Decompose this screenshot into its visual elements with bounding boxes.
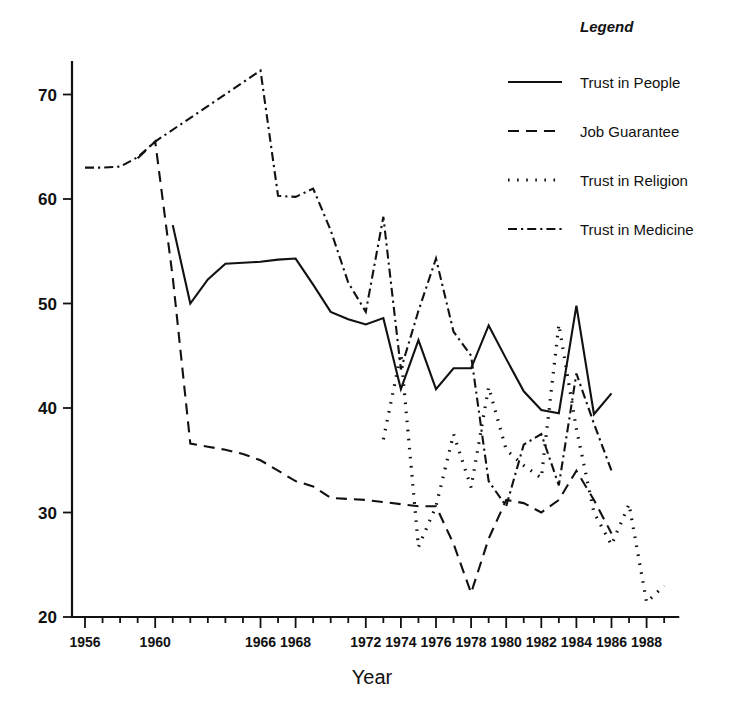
x-tick-label: 1968 — [280, 634, 311, 650]
y-tick-label: 30 — [38, 504, 57, 523]
series-line-trust-in-people — [173, 225, 612, 414]
x-tick-label: 1974 — [385, 634, 416, 650]
y-tick-label: 60 — [38, 190, 57, 209]
legend-label: Job Guarantee — [580, 123, 679, 140]
x-tick-label: 1956 — [69, 634, 100, 650]
series-line-trust-in-religion — [383, 324, 664, 602]
y-axis: 203040506070 — [38, 62, 72, 627]
y-tick-label: 70 — [38, 86, 57, 105]
x-tick-label: 1982 — [526, 634, 557, 650]
series-line-trust-in-medicine — [85, 70, 612, 506]
x-tick-label: 1966 — [245, 634, 276, 650]
x-tick-label: 1986 — [596, 634, 627, 650]
x-tick-label: 1980 — [491, 634, 522, 650]
x-axis: 1956196019661968197219741976197819801982… — [69, 617, 678, 650]
chart-legend: LegendTrust in PeopleJob GuaranteeTrust … — [508, 18, 694, 238]
chart-page: 203040506070 195619601966196819721974197… — [0, 0, 744, 711]
x-tick-label: 1978 — [456, 634, 487, 650]
series-line-job-guarantee — [138, 142, 612, 593]
y-tick-label: 40 — [38, 399, 57, 418]
x-tick-label: 1960 — [140, 634, 171, 650]
x-tick-label: 1984 — [561, 634, 592, 650]
x-tick-label: 1972 — [350, 634, 381, 650]
series-layer — [85, 70, 664, 602]
legend-label: Trust in Medicine — [580, 221, 694, 238]
legend-label: Trust in Religion — [580, 172, 688, 189]
legend-title: Legend — [580, 18, 634, 35]
chart-svg: 203040506070 195619601966196819721974197… — [0, 0, 744, 711]
x-tick-label: 1988 — [631, 634, 662, 650]
y-tick-label: 50 — [38, 295, 57, 314]
legend-label: Trust in People — [580, 74, 680, 91]
x-tick-label: 1976 — [420, 634, 451, 650]
y-tick-label: 20 — [38, 608, 57, 627]
line-chart-figure: 203040506070 195619601966196819721974197… — [0, 0, 744, 711]
x-axis-title: Year — [352, 666, 393, 688]
